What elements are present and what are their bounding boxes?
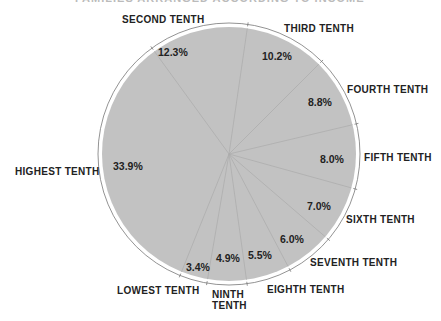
label-third: THIRD TENTH — [284, 23, 354, 34]
pct-ninth: 4.9% — [216, 252, 241, 264]
pct-lowest: 3.4% — [186, 261, 211, 273]
pct-highest: 33.9% — [113, 160, 143, 172]
label-sixth: SIXTH TENTH — [346, 214, 415, 225]
label-eighth: EIGHTH TENTH — [267, 284, 345, 295]
pct-third: 10.2% — [262, 50, 292, 62]
pct-eighth: 5.5% — [248, 249, 273, 261]
pct-second: 12.3% — [158, 46, 188, 58]
pie-chart: 12.3% 10.2% 8.8% 8.0% 7.0% 6.0% 5.5% 4.9… — [0, 0, 441, 321]
pct-fifth: 8.0% — [320, 153, 345, 165]
label-fourth: FOURTH TENTH — [347, 84, 428, 95]
label-ninth-line2: TENTH — [212, 300, 247, 311]
pct-sixth: 7.0% — [307, 200, 332, 212]
pct-seventh: 6.0% — [280, 233, 305, 245]
label-second: SECOND TENTH — [122, 14, 205, 25]
pct-fourth: 8.8% — [308, 96, 333, 108]
label-ninth-line1: NINTH — [212, 289, 244, 300]
label-highest: HIGHEST TENTH — [15, 166, 99, 177]
label-seventh: SEVENTH TENTH — [310, 257, 397, 268]
label-lowest: LOWEST TENTH — [117, 285, 199, 296]
label-fifth: FIFTH TENTH — [364, 152, 432, 163]
